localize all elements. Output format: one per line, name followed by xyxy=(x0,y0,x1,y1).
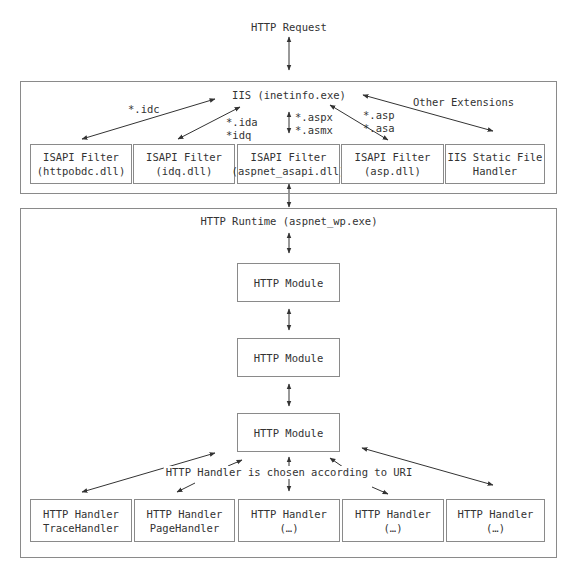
filter-line1: ISAPI Filter xyxy=(251,150,327,164)
filter-line1: IIS Static File xyxy=(448,150,543,164)
http-handler-other-2: HTTP Handler (…) xyxy=(342,499,444,542)
http-module-1: HTTP Module xyxy=(237,263,340,302)
ext-label-idc: *.idc xyxy=(128,103,160,116)
handler-line1: HTTP Handler xyxy=(43,507,119,521)
iis-title: IIS (inetinfo.exe) xyxy=(229,89,349,102)
isapi-filter-httpobdc: ISAPI Filter (httpobdc.dll) xyxy=(30,144,132,184)
filter-line1: ISAPI Filter xyxy=(355,150,431,164)
filter-line2: (asp.dll) xyxy=(364,164,421,178)
iis-static-file-handler: IIS Static File Handler xyxy=(445,144,545,184)
handler-line1: HTTP Handler xyxy=(147,507,223,521)
ext-label-idq: *idq xyxy=(226,129,251,142)
filter-line1: ISAPI Filter xyxy=(146,150,222,164)
filter-line2: Handler xyxy=(473,164,517,178)
handler-line2: (…) xyxy=(384,521,403,535)
http-handler-trace: HTTP Handler TraceHandler xyxy=(30,499,132,542)
module-label: HTTP Module xyxy=(254,426,324,440)
filter-line2: (aspnet_asapi.dll) xyxy=(232,164,346,178)
http-handler-page: HTTP Handler PageHandler xyxy=(134,499,235,542)
handler-line1: HTTP Handler xyxy=(355,507,431,521)
http-runtime-title: HTTP Runtime (aspnet_wp.exe) xyxy=(200,215,377,228)
filter-line2: (httpobdc.dll) xyxy=(37,164,126,178)
ext-label-aspx: *.aspx xyxy=(295,111,333,124)
http-handler-other-3: HTTP Handler (…) xyxy=(446,499,545,542)
module-label: HTTP Module xyxy=(254,351,324,365)
module-label: HTTP Module xyxy=(254,276,324,290)
ext-label-asmx: *.asmx xyxy=(295,124,333,137)
handler-line1: HTTP Handler xyxy=(251,507,327,521)
handler-line2: (…) xyxy=(280,521,299,535)
http-module-3: HTTP Module xyxy=(237,413,340,452)
http-request-label: HTTP Request xyxy=(251,21,327,34)
ext-label-ida: *.ida xyxy=(226,116,258,129)
ext-label-asp: *.asp xyxy=(363,109,395,122)
handler-line2: (…) xyxy=(486,521,505,535)
isapi-filter-asp: ISAPI Filter (asp.dll) xyxy=(341,144,444,184)
isapi-filter-aspnet-asapi: ISAPI Filter (aspnet_asapi.dll) xyxy=(237,144,340,184)
http-module-2: HTTP Module xyxy=(237,338,340,377)
handler-selection-note: HTTP Handler is chosen according to URI xyxy=(164,466,415,479)
http-handler-other-1: HTTP Handler (…) xyxy=(238,499,340,542)
handler-line2: PageHandler xyxy=(150,521,220,535)
isapi-filter-idq: ISAPI Filter (idq.dll) xyxy=(133,144,235,184)
ext-label-other: Other Extensions xyxy=(413,96,514,109)
handler-line2: TraceHandler xyxy=(43,521,119,535)
ext-label-asa: *.asa xyxy=(363,122,395,135)
filter-line2: (idq.dll) xyxy=(156,164,213,178)
filter-line1: ISAPI Filter xyxy=(43,150,119,164)
handler-line1: HTTP Handler xyxy=(458,507,534,521)
